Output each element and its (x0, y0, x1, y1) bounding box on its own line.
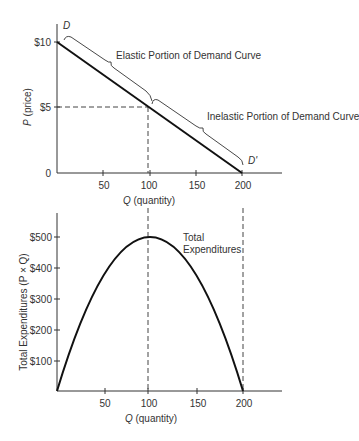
bottom-y-tick-label-100: $100 (30, 356, 53, 367)
total-expenditure-curve (57, 237, 243, 391)
inelastic-brace (152, 100, 243, 166)
bottom-x-axis-title: Q (quantity) (125, 413, 177, 424)
top-x-tick-label-200: 200 (235, 180, 252, 191)
top-x-tick-label-150: 150 (189, 180, 206, 191)
total-expenditures-label-line2: Expenditures (183, 244, 241, 255)
demand-chart: $10 $5 0 50 100 150 200 Q (quantity) P (… (22, 20, 359, 206)
top-y-tick-label-5: $5 (40, 102, 52, 113)
inelastic-portion-label: Inelastic Portion of Demand Curve (207, 111, 359, 122)
bottom-x-tick-label-50: 50 (99, 398, 111, 409)
demand-start-label: D (63, 20, 70, 31)
top-y-axis-title: P (price) (22, 88, 33, 126)
bottom-y-tick-label-500: $500 (30, 232, 53, 243)
demand-end-label: D' (248, 155, 258, 166)
bottom-y-tick-label-400: $400 (30, 263, 53, 274)
expenditure-chart: $500 $400 $300 $200 $100 50 100 150 200 … (18, 208, 282, 424)
bottom-y-tick-label-200: $200 (30, 325, 53, 336)
bottom-y-tick-label-300: $300 (30, 294, 53, 305)
top-x-tick-label-100: 100 (141, 180, 158, 191)
elastic-portion-label: Elastic Portion of Demand Curve (116, 50, 262, 61)
bottom-x-tick-label-100: 100 (141, 398, 158, 409)
total-expenditures-label-line1: Total (183, 232, 204, 243)
top-y-tick-label-10: $10 (34, 37, 51, 48)
bottom-x-tick-label-150: 150 (190, 398, 207, 409)
elastic-brace (64, 36, 152, 101)
bottom-y-axis-title: Total Expenditures (P × Q) (18, 253, 29, 370)
chart-canvas: $10 $5 0 50 100 150 200 Q (quantity) P (… (0, 0, 359, 441)
top-origin-label: 0 (45, 168, 51, 179)
top-x-tick-label-50: 50 (98, 180, 110, 191)
bottom-x-tick-label-200: 200 (236, 398, 253, 409)
top-x-axis-title: Q (quantity) (123, 195, 175, 206)
